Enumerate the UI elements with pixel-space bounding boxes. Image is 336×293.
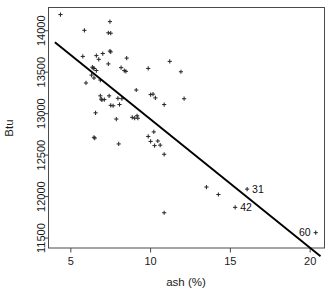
data-point	[82, 28, 86, 32]
y-tick-label: 13000	[35, 98, 47, 129]
data-point	[179, 70, 183, 74]
plot-canvas: 115001200012500130001350014000 5101520 3…	[0, 0, 336, 293]
data-point	[117, 102, 121, 106]
data-point	[116, 96, 120, 100]
data-point	[216, 192, 220, 196]
labeled-data-point	[314, 231, 318, 235]
y-tick-label: 12500	[35, 140, 47, 171]
data-point	[146, 66, 150, 70]
data-point	[108, 19, 112, 23]
data-point	[117, 142, 121, 146]
data-point	[93, 136, 97, 140]
labeled-data-point	[245, 187, 249, 191]
x-tick-label: 15	[224, 255, 236, 267]
data-point	[114, 117, 118, 121]
x-tick-label: 20	[304, 255, 316, 267]
data-point	[162, 102, 166, 106]
data-point	[58, 12, 62, 16]
data-point	[109, 31, 113, 35]
data-point	[149, 139, 153, 143]
plot-frame-rect	[49, 8, 325, 249]
y-tick-label: 14000	[35, 15, 47, 46]
x-tick-label: 10	[144, 255, 156, 267]
data-point	[94, 54, 98, 58]
y-axis-ticks: 115001200012500130001350014000	[35, 15, 49, 253]
data-point	[93, 111, 97, 115]
data-point	[204, 185, 208, 189]
regression-line-group	[55, 42, 321, 256]
data-point-label: 60	[299, 226, 311, 238]
data-points	[58, 12, 220, 214]
data-point	[135, 114, 139, 118]
regression-line	[55, 42, 321, 256]
data-point	[162, 152, 166, 156]
y-tick-label: 13500	[35, 57, 47, 88]
data-point	[92, 76, 96, 80]
y-axis-title: Btu	[3, 119, 15, 136]
x-tick-label: 5	[68, 255, 74, 267]
scatter-plot-figure: 115001200012500130001350014000 5101520 3…	[0, 0, 336, 293]
data-point	[97, 57, 101, 61]
plot-frame	[49, 8, 325, 249]
data-point	[108, 49, 112, 53]
data-point	[136, 116, 140, 120]
data-point	[98, 94, 102, 98]
data-point	[94, 68, 98, 72]
data-point	[152, 143, 156, 147]
data-point	[109, 50, 113, 54]
data-point	[152, 130, 156, 134]
data-point	[84, 81, 88, 85]
data-point-label: 42	[240, 201, 252, 213]
data-point	[107, 94, 111, 98]
data-point	[130, 115, 134, 119]
data-point	[111, 104, 115, 108]
labeled-outliers: 314260	[233, 183, 318, 239]
data-point	[182, 97, 186, 101]
data-point	[168, 59, 172, 63]
x-axis-title: ash (%)	[166, 276, 206, 288]
data-point	[92, 135, 96, 139]
data-point-label: 31	[252, 183, 264, 195]
data-point	[162, 211, 166, 215]
y-tick-label: 12000	[35, 181, 47, 212]
data-point	[106, 62, 110, 66]
data-point	[102, 97, 106, 101]
data-point	[151, 92, 155, 96]
data-point	[153, 96, 157, 100]
labeled-data-point	[233, 205, 237, 209]
data-point	[134, 88, 138, 92]
data-point	[146, 134, 150, 138]
x-axis-ticks: 5101520	[68, 248, 316, 267]
data-point	[81, 54, 85, 58]
data-point	[156, 139, 160, 143]
data-point	[125, 56, 129, 60]
y-tick-label: 11500	[35, 223, 47, 253]
data-point	[101, 51, 105, 55]
data-point	[119, 66, 123, 70]
data-point	[158, 143, 162, 147]
